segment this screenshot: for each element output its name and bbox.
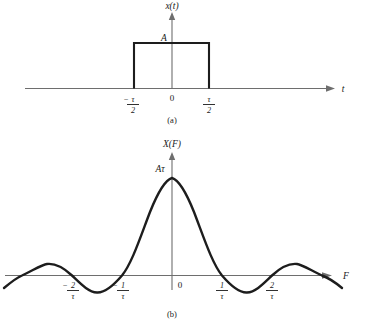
panel-b-tick-2-denominator: τ xyxy=(221,292,225,301)
panel-b-tick-3-numerator: 2 xyxy=(270,281,274,290)
panel-b-caption: (b) xyxy=(167,309,177,319)
panel-a-y-axis xyxy=(169,12,175,89)
panel-a-x-axis-label: t xyxy=(342,84,345,94)
figure-svg: x(t) t A 0 τ − 2 τ 2 (a) xyxy=(0,0,365,330)
panel-b-peak-label: Aτ xyxy=(154,164,165,174)
panel-b-y-axis-arrowhead xyxy=(169,152,175,160)
panel-b-tick-label-2-over-tau: 2 τ xyxy=(266,281,278,301)
panel-a-x-axis xyxy=(25,85,335,91)
panel-b-y-axis xyxy=(169,152,175,290)
panel-b-origin-label: 0 xyxy=(178,280,183,290)
panel-a-tick-label-neg-tau-over-2: τ − 2 xyxy=(123,95,139,115)
panel-b-tick-0-denominator: τ xyxy=(72,292,76,301)
panel-a-tick-pos-numerator: τ xyxy=(208,95,212,104)
panel-b-x-axis xyxy=(5,272,332,278)
panel-b-tick-label-neg-2-over-tau: 2 − τ xyxy=(62,281,79,301)
panel-a-tick-pos-denominator: 2 xyxy=(207,106,211,115)
panel-a: x(t) t A 0 τ − 2 τ 2 (a) xyxy=(25,1,345,125)
panel-a-amplitude-label: A xyxy=(160,33,167,43)
panel-b-tick-label-neg-1-over-tau: 1 − τ xyxy=(112,281,129,301)
panel-b-tick-1-numerator: 1 xyxy=(121,281,125,290)
panel-a-tick-label-tau-over-2: τ 2 xyxy=(203,95,215,115)
panel-a-y-axis-arrowhead xyxy=(169,12,175,20)
panel-b-tick-2-numerator: 1 xyxy=(220,281,224,290)
panel-b-tick-label-1-over-tau: 1 τ xyxy=(216,281,228,301)
panel-a-tick-neg-denominator: 2 xyxy=(131,106,135,115)
panel-a-tick-neg-sign: − xyxy=(123,95,129,104)
panel-a-caption: (a) xyxy=(167,115,177,125)
panel-b-tick-3-denominator: τ xyxy=(271,292,275,301)
panel-a-origin-label: 0 xyxy=(170,93,175,103)
figure-container: x(t) t A 0 τ − 2 τ 2 (a) xyxy=(0,0,365,330)
panel-a-x-axis-arrowhead xyxy=(326,85,335,91)
panel-b-tick-0-numerator: 2 xyxy=(71,281,75,290)
panel-b-x-axis-label: F xyxy=(342,271,349,281)
panel-a-tick-neg-numerator: τ xyxy=(132,95,136,104)
panel-b-y-axis-label: X(F) xyxy=(162,139,181,150)
panel-b-tick-0-sign: − xyxy=(62,281,68,290)
panel-a-y-axis-label: x(t) xyxy=(164,1,178,12)
panel-b-tick-1-denominator: τ xyxy=(122,292,126,301)
panel-b-tick-1-sign: − xyxy=(112,281,118,290)
panel-b: X(F) F Aτ 0 2 − τ 1 − τ 1 xyxy=(4,139,349,319)
